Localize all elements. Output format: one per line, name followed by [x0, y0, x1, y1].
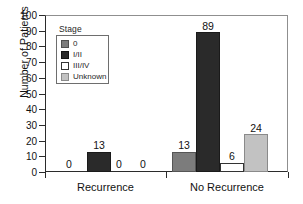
legend-label-stage-iii-iv: III/IV [73, 62, 89, 70]
white-swatch-icon [61, 62, 69, 70]
legend: 0 I/II III/IV Unknown [56, 35, 109, 84]
legend-item-stage-iii-iv: III/IV [61, 61, 108, 72]
y-tick-label-100: 100 [0, 11, 37, 21]
y-tick-label-60: 60 [0, 74, 37, 84]
y-tick-label-90: 90 [0, 27, 37, 37]
legend-item-stage-i-ii: I/II [61, 50, 108, 61]
bar-value-recurrence-stage-i-ii: 13 [79, 140, 119, 151]
black-swatch-icon [61, 51, 69, 59]
dark-gray-swatch-icon [61, 40, 69, 48]
legend-label-stage-unknown: Unknown [73, 73, 106, 81]
bar-value-no-recurrence-stage-i-ii: 89 [188, 21, 228, 32]
y-tick-label-0: 0 [0, 168, 37, 178]
legend-title: Stage [59, 24, 82, 34]
legend-label-stage-i-ii: I/II [73, 51, 82, 59]
x-axis-label-no-recurrence: No Recurrence [167, 181, 287, 193]
y-tick-label-20: 20 [0, 137, 37, 147]
x-tick-mark [166, 172, 167, 178]
y-tick-label-50: 50 [0, 90, 37, 100]
x-axis-label-recurrence: Recurrence [46, 181, 166, 193]
bar-no-recurrence-stage-0 [172, 152, 196, 172]
y-tick-label-30: 30 [0, 121, 37, 131]
y-tick-label-70: 70 [0, 58, 37, 68]
bar-value-no-recurrence-stage-unknown: 24 [236, 123, 276, 134]
bar-chart: Number of Patients 100 90 80 70 60 50 40… [0, 0, 303, 204]
bar-value-recurrence-stage-0: 0 [49, 159, 89, 170]
x-tick-mark [288, 172, 289, 178]
light-gray-swatch-icon [61, 73, 69, 81]
y-tick-label-40: 40 [0, 105, 37, 115]
x-tick-mark [45, 172, 46, 178]
legend-item-stage-0: 0 [61, 39, 108, 50]
bar-no-recurrence-stage-iii-iv [220, 163, 244, 172]
legend-label-stage-0: 0 [73, 40, 77, 48]
y-tick-label-10: 10 [0, 152, 37, 162]
bar-value-recurrence-stage-unknown: 0 [123, 159, 163, 170]
bar-no-recurrence-stage-unknown [244, 134, 268, 172]
legend-item-stage-unknown: Unknown [61, 72, 108, 83]
y-tick-label-80: 80 [0, 42, 37, 52]
